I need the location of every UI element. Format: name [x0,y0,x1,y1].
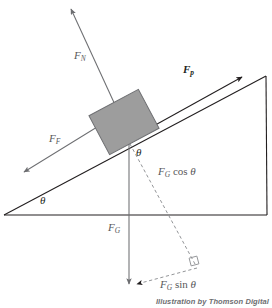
sin-component-subscript: G [167,283,172,292]
gravity-cosine-component-label: FG cos θ [158,166,196,177]
gravity-force-symbol: F [108,221,115,233]
normal-force-subscript: N [81,54,86,63]
friction-force-subscript: F [56,137,61,146]
sin-component-operator: sin [172,278,190,290]
incline-vertical-line [266,76,267,215]
normal-force-label: FN [74,50,86,61]
right-angle-marker [189,256,199,266]
sin-component-symbol: F [160,278,167,290]
cos-component-symbol: F [158,165,165,177]
gravity-cosine-component-line [130,144,195,264]
friction-force-symbol: F [49,132,56,144]
sin-component-theta: θ [191,278,196,290]
incline-base-angle-label: θ [40,195,45,206]
physics-diagram: FN Fp FF FG FG cos θ FG sin θ θ θ Illust… [0,0,272,308]
block-on-incline [89,89,159,154]
cos-component-theta: θ [190,165,195,177]
illustration-credit: Illustration by Thomson Digital [156,297,269,306]
gravity-force-label: FG [108,222,120,233]
friction-force-label: FF [49,133,60,144]
gravity-force-subscript: G [115,226,120,235]
block-body [89,89,159,154]
cos-component-operator: cos [170,165,190,177]
block-gravity-angle-label: θ [136,147,141,158]
applied-force-label: Fp [183,64,194,75]
gravity-sine-component-label: FG sin θ [160,279,196,290]
cos-component-subscript: G [165,170,170,179]
normal-force-symbol: F [74,49,81,61]
applied-force-subscript: p [190,68,194,77]
